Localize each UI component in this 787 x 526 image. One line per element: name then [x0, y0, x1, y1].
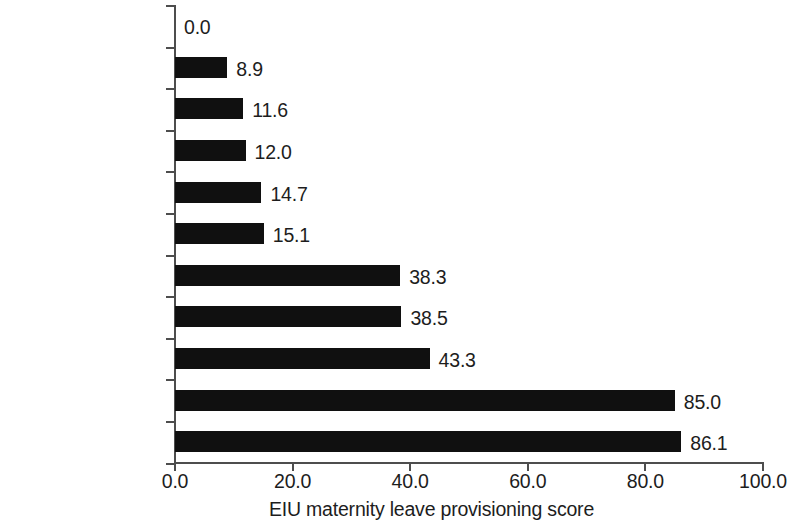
x-axis-title: EIU maternity leave provisioning score: [0, 500, 783, 520]
bar: [175, 140, 246, 161]
bar: [175, 306, 401, 327]
x-axis-tick-label: 60.0: [509, 472, 546, 492]
bar-row: Singapore15.1: [174, 213, 762, 255]
bar-value-label: 38.5: [410, 309, 447, 329]
x-axis-tick-label: 80.0: [627, 472, 664, 492]
bar-value-label: 15.1: [273, 226, 310, 246]
bar-value-label: 12.0: [255, 143, 292, 163]
bar-row: Korea, Rep. of38.5: [174, 296, 762, 338]
bar-row: Australia0.0: [174, 5, 762, 47]
x-axis-tick-label: 0.0: [162, 472, 189, 492]
bar-row: Hong Kong, China14.7: [174, 171, 762, 213]
bar-row: Indonesia8.9: [174, 47, 762, 89]
bar: [175, 348, 430, 369]
bar-value-label: 14.7: [270, 185, 307, 205]
bar: [175, 98, 243, 119]
bar-row: China12.0: [174, 130, 762, 172]
bar-value-label: 0.0: [184, 18, 211, 38]
bar: [175, 223, 264, 244]
x-axis-tick-label: 20.0: [274, 472, 311, 492]
bar-row: Vietnam85.0: [174, 379, 762, 421]
bar-value-label: 38.3: [409, 268, 446, 288]
x-axis-tick-label: 100.0: [739, 472, 787, 492]
bar: [175, 390, 675, 411]
bar-value-label: 8.9: [236, 60, 263, 80]
bar-value-label: 11.6: [252, 101, 288, 121]
bar: [175, 182, 261, 203]
bar-value-label: 86.1: [690, 434, 727, 454]
plot-area: Australia0.0Indonesia8.9Malaysia11.6Chin…: [174, 5, 762, 462]
bar-row: Philippines38.3: [174, 255, 762, 297]
bar: [175, 265, 400, 286]
bar-value-label: 85.0: [684, 393, 721, 413]
bar-row: New Zealand86.1: [174, 421, 762, 463]
bar: [175, 431, 681, 452]
bar-value-label: 43.3: [439, 351, 476, 371]
bar-row: Malaysia11.6: [174, 88, 762, 130]
bar-row: Thailand43.3: [174, 338, 762, 380]
x-axis-tick-label: 40.0: [392, 472, 429, 492]
x-axis-title-text: EIU maternity leave provisioning score: [189, 498, 594, 520]
bar: [175, 57, 227, 78]
